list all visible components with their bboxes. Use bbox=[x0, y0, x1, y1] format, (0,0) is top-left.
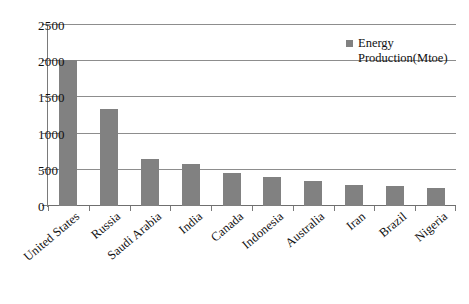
y-tick-label-1000: 1000 bbox=[38, 127, 39, 140]
category-label: Indonesia bbox=[240, 210, 286, 252]
category-label: Brazil bbox=[377, 210, 409, 240]
legend-label-line2: Production(Mtoe) bbox=[358, 51, 448, 65]
bar bbox=[427, 188, 445, 206]
category-label: Australia bbox=[283, 210, 327, 250]
chart-legend: Energy Production(Mtoe) bbox=[346, 36, 466, 66]
category-label: Russia bbox=[89, 210, 123, 242]
bar bbox=[141, 159, 159, 206]
bar bbox=[345, 185, 363, 206]
category-label: Iran bbox=[344, 210, 368, 233]
y-tick-label-0: 0 bbox=[38, 200, 39, 213]
bar bbox=[182, 164, 200, 206]
bar bbox=[223, 173, 241, 206]
y-tick-label-2000: 2000 bbox=[38, 55, 39, 68]
bar bbox=[304, 181, 322, 206]
bar bbox=[100, 109, 118, 206]
category-label: Nigeria bbox=[412, 210, 450, 245]
category-label: United States bbox=[22, 210, 83, 264]
bar bbox=[386, 186, 404, 206]
bar-chart-figure: 05001000150020002500 United StatesRussia… bbox=[0, 0, 469, 304]
legend-swatch-icon bbox=[346, 40, 353, 47]
y-tick-label-500: 500 bbox=[38, 163, 39, 176]
y-axis bbox=[47, 24, 48, 207]
y-tick-label-2500: 2500 bbox=[38, 19, 39, 32]
y-tick-label-1500: 1500 bbox=[38, 91, 39, 104]
legend-label-line1: Energy bbox=[358, 36, 394, 50]
bar bbox=[263, 177, 281, 206]
category-label: India bbox=[177, 210, 205, 237]
legend-item-energy-production: Energy Production(Mtoe) bbox=[346, 36, 466, 66]
x-axis-category-labels: United StatesRussiaSaudi ArabiaIndiaCana… bbox=[48, 210, 456, 300]
